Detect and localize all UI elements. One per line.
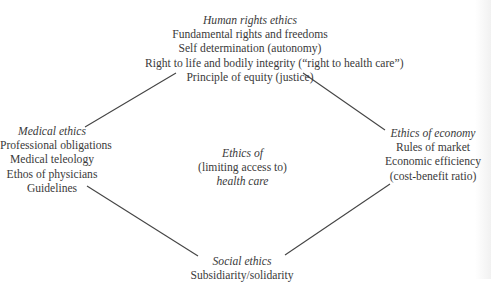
node-item: Medical teleology bbox=[0, 153, 104, 167]
node-item: Principle of equity (justice) bbox=[145, 71, 355, 85]
node-medical-ethics: Medical ethics Professional obligations … bbox=[0, 125, 104, 196]
node-human-rights-ethics: Human rights ethics Fundamental rights a… bbox=[145, 14, 355, 85]
node-item: Rules of market bbox=[380, 141, 486, 155]
node-item: Self determination (autonomy) bbox=[145, 42, 355, 56]
node-social-ethics: Social ethics Subsidiarity/solidarity bbox=[178, 255, 306, 283]
node-item: (cost-benefit ratio) bbox=[380, 170, 486, 184]
center-line-2: (limiting access to) bbox=[180, 161, 305, 175]
node-title: Medical ethics bbox=[0, 125, 104, 139]
node-item: Right to life and bodily integrity (“rig… bbox=[145, 57, 355, 71]
center-line-1: Ethics of bbox=[180, 147, 305, 161]
node-ethics-of-economy: Ethics of economy Rules of market Econom… bbox=[380, 127, 486, 184]
node-item: Guidelines bbox=[0, 182, 104, 196]
node-item: Economic efficiency bbox=[380, 155, 486, 169]
node-title: Ethics of economy bbox=[380, 127, 486, 141]
node-title: Human rights ethics bbox=[145, 14, 355, 28]
center-line-3: health care bbox=[180, 175, 305, 189]
node-title: Social ethics bbox=[178, 255, 306, 269]
node-item: Ethos of physicians bbox=[0, 168, 104, 182]
connector-bottom-right bbox=[285, 184, 390, 255]
node-item: Fundamental rights and freedoms bbox=[145, 28, 355, 42]
node-center-ethics-of-health-care: Ethics of (limiting access to) health ca… bbox=[180, 147, 305, 190]
node-item: Professional obligations bbox=[0, 139, 104, 153]
connector-left-bottom bbox=[87, 186, 198, 256]
node-item: Subsidiarity/solidarity bbox=[178, 269, 306, 283]
